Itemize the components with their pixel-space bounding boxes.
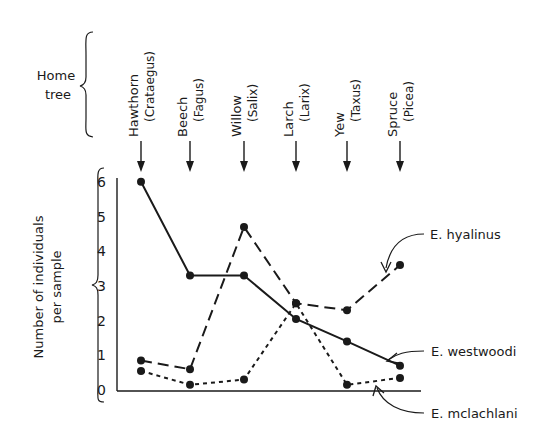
y-tick-label: 0 — [97, 382, 106, 398]
data-point — [396, 261, 404, 269]
category-latin-label: (Taxus) — [349, 79, 363, 122]
data-point — [186, 272, 194, 280]
category-latin-label: (Crataegus) — [143, 51, 157, 122]
data-point — [292, 299, 300, 307]
data-point — [343, 306, 351, 314]
y-tick-label: 6 — [97, 174, 106, 190]
header-brace — [80, 32, 93, 137]
data-point — [240, 223, 248, 231]
category-label: Spruce — [385, 92, 400, 137]
header-label-tree: tree — [45, 87, 71, 102]
arrowhead-icon — [186, 161, 194, 172]
annotation-arrow-hyalinus — [386, 234, 424, 268]
y-tick-label: 3 — [97, 278, 106, 294]
arrowhead-icon — [343, 161, 351, 172]
category-latin-label: (Fagus) — [192, 78, 206, 122]
data-point — [396, 374, 404, 382]
y-tick-label: 4 — [97, 243, 106, 259]
category-labels: Hawthorn(Crataegus)Beech(Fagus)Willow(Sa… — [126, 51, 416, 138]
category-latin-label: (Larix) — [298, 83, 312, 122]
data-point — [240, 272, 248, 280]
legend-mclachlani: E. mclachlani — [431, 406, 518, 421]
legend-westwoodi: E. westwoodi — [431, 344, 516, 359]
y-tick-label: 5 — [97, 209, 106, 225]
arrowhead-icon — [292, 161, 300, 172]
arrowhead-icon — [387, 353, 398, 363]
series-lines — [137, 178, 404, 389]
y-tick-label: 1 — [97, 347, 106, 363]
category-latin-label: (Picea) — [402, 81, 416, 122]
arrowhead-icon — [396, 161, 404, 172]
data-point — [186, 365, 194, 373]
data-point — [292, 315, 300, 323]
data-point — [137, 178, 145, 186]
data-point — [137, 367, 145, 375]
category-label: Beech — [175, 97, 190, 137]
data-point — [137, 357, 145, 365]
category-arrows — [137, 141, 404, 172]
y-tick-label: 2 — [97, 313, 106, 329]
legend-hyalinus: E. hyalinus — [430, 227, 501, 242]
category-label: Hawthorn — [126, 74, 141, 137]
series-line-e-mclachlani — [141, 303, 400, 385]
ylabel-line2: per sample — [49, 251, 64, 324]
category-label: Willow — [229, 95, 244, 137]
data-point — [343, 381, 351, 389]
data-point — [343, 337, 351, 345]
arrowhead-icon — [240, 161, 248, 172]
category-label: Larch — [281, 101, 296, 137]
category-latin-label: (Salix) — [246, 84, 260, 122]
category-label: Yew — [332, 112, 347, 138]
arrowhead-icon — [137, 161, 145, 172]
data-point — [240, 376, 248, 384]
header-label-home: Home — [37, 68, 75, 83]
series-line-e-westwoodi — [141, 182, 400, 366]
annotation-arrow-mclachlani — [377, 388, 424, 413]
ylabel-line1: Number of individuals — [31, 215, 46, 358]
data-point — [186, 381, 194, 389]
line-chart: Home tree Hawthorn(Crataegus)Beech(Fagus… — [0, 0, 547, 444]
